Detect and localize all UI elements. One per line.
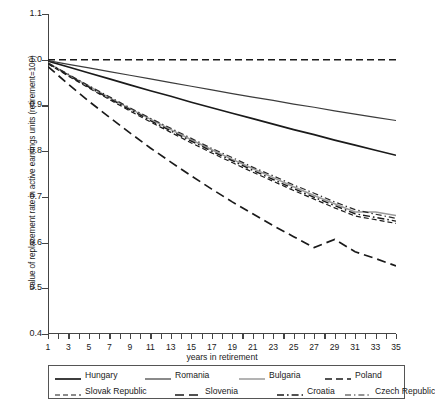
legend-item-poland[interactable]: Poland xyxy=(325,367,382,383)
x-tick xyxy=(68,334,69,339)
x-tick-label: 31 xyxy=(346,342,364,352)
legend-label: Poland xyxy=(355,370,382,380)
x-tick xyxy=(161,334,162,339)
y-tick-label: 0.7 xyxy=(16,191,42,201)
legend-row-2: Slovak RepublicSloveniaCroatiaCzech Repu… xyxy=(49,383,404,399)
legend-label: Romania xyxy=(175,370,209,380)
x-tick-label: 5 xyxy=(80,342,98,352)
legend-line-swatch xyxy=(277,386,303,396)
x-tick xyxy=(58,334,59,339)
legend-label: Bulgaria xyxy=(269,370,301,380)
x-tick xyxy=(304,334,305,339)
y-tick-label: 0.9 xyxy=(16,99,42,109)
x-tick-label: 29 xyxy=(326,342,344,352)
legend-label: Slovenia xyxy=(205,386,238,396)
x-tick xyxy=(181,334,182,339)
x-tick-label: 25 xyxy=(285,342,303,352)
legend-row-1: HungaryRomaniaBulgariaPoland xyxy=(49,367,404,383)
legend-item-hungary[interactable]: Hungary xyxy=(55,367,117,383)
legend-item-romania[interactable]: Romania xyxy=(145,367,209,383)
y-tick-label: 0.4 xyxy=(16,328,42,338)
legend-item-croatia[interactable]: Croatia xyxy=(277,383,335,399)
plot-area: 0.40.50.60.70.80.91.01.1 135791113151719… xyxy=(48,14,396,334)
legend-line-swatch xyxy=(325,370,351,380)
series-line-slovak-republic xyxy=(48,64,396,224)
x-tick-label: 27 xyxy=(305,342,323,352)
x-tick-label: 21 xyxy=(244,342,262,352)
x-tick-label: 7 xyxy=(100,342,118,352)
legend-item-slovenia[interactable]: Slovenia xyxy=(175,383,238,399)
x-tick xyxy=(345,334,346,339)
legend-line-swatch xyxy=(55,370,81,380)
x-tick xyxy=(48,334,49,339)
series-line-hungary xyxy=(48,61,396,155)
x-tick xyxy=(324,334,325,339)
x-tick xyxy=(253,334,254,339)
x-axis-title: years in retirement xyxy=(48,352,396,362)
x-tick xyxy=(273,334,274,339)
series-line-bulgaria xyxy=(48,63,396,216)
x-tick xyxy=(222,334,223,339)
x-tick-label: 15 xyxy=(182,342,200,352)
series-line-slovenia xyxy=(48,67,396,266)
x-tick-label: 23 xyxy=(264,342,282,352)
legend-line-swatch xyxy=(175,386,201,396)
x-tick xyxy=(376,334,377,339)
x-tick-label: 3 xyxy=(59,342,77,352)
legend-line-swatch xyxy=(239,370,265,380)
x-tick xyxy=(109,334,110,339)
x-tick-label: 11 xyxy=(141,342,159,352)
series-line-romania xyxy=(48,61,396,121)
y-axis-title: value of replacement rate in active earn… xyxy=(28,23,37,323)
x-tick xyxy=(79,334,80,339)
legend-item-czech-republic[interactable]: Czech Republic xyxy=(345,383,435,399)
x-tick xyxy=(191,334,192,339)
x-tick xyxy=(150,334,151,339)
x-tick xyxy=(386,334,387,339)
x-tick xyxy=(365,334,366,339)
x-tick xyxy=(314,334,315,339)
x-tick-label: 17 xyxy=(203,342,221,352)
x-tick xyxy=(294,334,295,339)
y-tick-label: 0.6 xyxy=(16,237,42,247)
chart-legend: HungaryRomaniaBulgariaPoland Slovak Repu… xyxy=(48,365,405,399)
x-tick xyxy=(120,334,121,339)
x-tick xyxy=(263,334,264,339)
legend-label: Hungary xyxy=(85,370,117,380)
legend-label: Croatia xyxy=(307,386,335,396)
y-tick-label: 0.5 xyxy=(16,282,42,292)
series-lines xyxy=(48,14,396,334)
x-tick-label: 9 xyxy=(121,342,139,352)
x-tick xyxy=(355,334,356,339)
x-tick xyxy=(140,334,141,339)
legend-line-swatch xyxy=(55,386,81,396)
legend-item-bulgaria[interactable]: Bulgaria xyxy=(239,367,301,383)
x-tick xyxy=(335,334,336,339)
x-tick-label: 1 xyxy=(39,342,57,352)
x-tick xyxy=(232,334,233,339)
x-tick xyxy=(396,334,397,339)
x-tick xyxy=(171,334,172,339)
x-tick xyxy=(89,334,90,339)
legend-line-swatch xyxy=(145,370,171,380)
y-tick-label: 0.8 xyxy=(16,145,42,155)
x-tick-label: 19 xyxy=(223,342,241,352)
legend-label: Czech Republic xyxy=(375,386,435,396)
legend-item-slovak-republic[interactable]: Slovak Republic xyxy=(55,383,147,399)
y-tick-label: 1.0 xyxy=(16,54,42,64)
y-tick-label: 1.1 xyxy=(16,8,42,18)
legend-line-swatch xyxy=(345,386,371,396)
x-tick xyxy=(283,334,284,339)
x-tick xyxy=(130,334,131,339)
x-tick xyxy=(202,334,203,339)
x-tick xyxy=(212,334,213,339)
x-tick xyxy=(99,334,100,339)
x-tick-label: 33 xyxy=(367,342,385,352)
x-tick xyxy=(242,334,243,339)
legend-label: Slovak Republic xyxy=(85,386,147,396)
x-tick-label: 35 xyxy=(387,342,405,352)
x-tick-label: 13 xyxy=(162,342,180,352)
